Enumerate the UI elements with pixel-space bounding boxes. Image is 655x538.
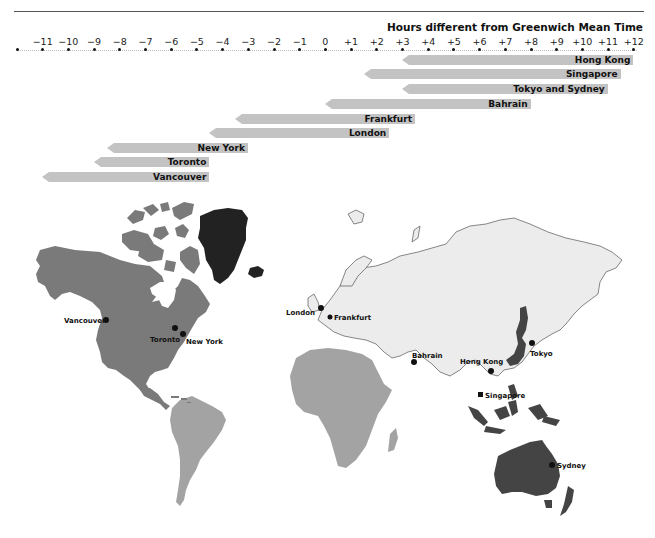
central-america	[140, 388, 170, 410]
tick-dot	[401, 48, 404, 51]
bar-label: Bahrain	[488, 98, 527, 110]
bar-label: London	[349, 127, 386, 139]
tick-dot	[16, 48, 19, 51]
tick-dot	[530, 48, 533, 51]
city-label-hong-kong: Hong Kong	[460, 358, 503, 366]
north-america	[36, 246, 210, 394]
city-marker-vancouver: Vancouver	[64, 317, 109, 325]
city-label-tokyo: Tokyo	[530, 350, 553, 358]
eurasia	[318, 218, 622, 376]
africa	[290, 348, 392, 468]
city-label-sydney: Sydney	[557, 462, 586, 470]
world-map: Vancouver Toronto New York London Frankf…	[0, 190, 655, 538]
bar-label: New York	[198, 142, 245, 154]
top-rule	[14, 11, 644, 12]
tick-dot	[581, 48, 584, 51]
timezone-bar: Singapore	[371, 69, 621, 79]
bar-label: Toronto	[168, 156, 207, 168]
city-label-bahrain: Bahrain	[412, 352, 443, 360]
timezone-bar: Tokyo and Sydney	[409, 84, 608, 94]
axis-line	[17, 50, 637, 51]
tick-dot	[350, 48, 353, 51]
novaya-zemlya	[412, 226, 420, 242]
timezone-bar: Hong Kong	[409, 55, 633, 65]
iceland	[248, 266, 264, 278]
city-marker-tokyo: Tokyo	[529, 340, 553, 358]
timezone-bar: Bahrain	[332, 99, 531, 109]
city-marker-london: London	[286, 305, 324, 317]
timezone-bar: Toronto	[101, 157, 210, 167]
timezone-bar: New York	[114, 143, 248, 153]
city-label-vancouver: Vancouver	[64, 317, 106, 325]
tick-dot	[607, 48, 610, 51]
city-label-london: London	[286, 309, 315, 317]
bar-label: Vancouver	[153, 171, 206, 183]
tick-dot	[170, 48, 173, 51]
greenland	[198, 208, 248, 284]
city-label-new-york: New York	[186, 338, 223, 346]
madagascar	[388, 428, 398, 452]
canadian-arctic-islands	[122, 202, 200, 274]
chart-title: Hours different from Greenwich Mean Time	[387, 21, 643, 33]
timezone-bar: London	[216, 128, 389, 138]
timezone-bar: Vancouver	[49, 172, 209, 182]
city-label-frankfurt: Frankfurt	[334, 314, 372, 322]
tick-label: +12	[619, 36, 649, 47]
tick-dot	[93, 48, 96, 51]
timezone-bar: Frankfurt	[242, 114, 415, 124]
bar-label: Tokyo and Sydney	[513, 83, 605, 95]
svalbard	[348, 210, 364, 224]
tick-dot	[427, 48, 430, 51]
city-marker-frankfurt: Frankfurt	[328, 314, 372, 322]
bar-label: Singapore	[566, 68, 618, 80]
city-marker-singapore: Singapore	[478, 392, 525, 400]
tick-dot	[67, 48, 70, 51]
tick-dot	[247, 48, 250, 51]
city-label-singapore: Singapore	[485, 392, 525, 400]
south-america	[170, 396, 226, 506]
new-zealand	[560, 486, 574, 516]
bar-label: Frankfurt	[364, 113, 412, 125]
tick-dot	[144, 48, 147, 51]
city-label-toronto: Toronto	[150, 336, 180, 344]
tasmania	[544, 500, 552, 508]
tick-dot	[273, 48, 276, 51]
tick-dot	[504, 48, 507, 51]
australia	[494, 440, 560, 496]
tick-dot	[324, 48, 327, 51]
bar-label: Hong Kong	[575, 54, 631, 66]
